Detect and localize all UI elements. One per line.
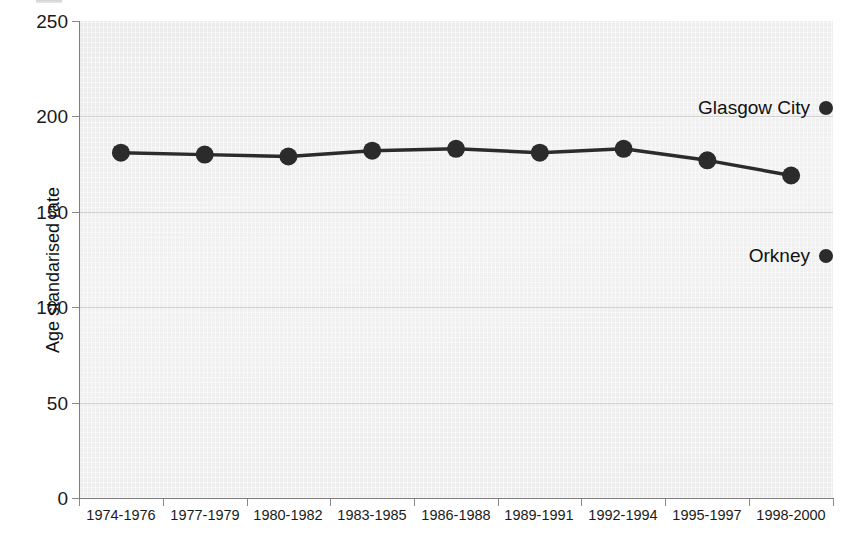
line-chart: 250 200 150 100 50 0 Age standarised rat… bbox=[0, 0, 843, 543]
x-tick-mark-4 bbox=[414, 499, 415, 506]
x-tick-mark-9 bbox=[833, 499, 834, 506]
data-point bbox=[698, 151, 716, 169]
x-tick-mark-2 bbox=[247, 499, 248, 506]
y-tick-mark-200 bbox=[72, 116, 79, 117]
y-tick-mark-150 bbox=[72, 212, 79, 213]
y-tick-label-0: 0 bbox=[0, 489, 68, 508]
x-tick-label-1983-1985: 1983-1985 bbox=[337, 508, 406, 523]
legend-label-glasgow-city: Glasgow City bbox=[698, 97, 810, 119]
x-tick-label-1989-1991: 1989-1991 bbox=[504, 508, 573, 523]
series-glasgow-city bbox=[79, 21, 833, 498]
data-point bbox=[363, 142, 381, 160]
x-tick-label-1980-1982: 1980-1982 bbox=[253, 508, 322, 523]
x-tick-mark-8 bbox=[749, 499, 750, 506]
y-tick-label-50: 50 bbox=[0, 394, 68, 413]
series-markers bbox=[112, 140, 800, 185]
filled-circle-marker-icon bbox=[819, 249, 833, 263]
legend-item-glasgow-city: Glasgow City bbox=[698, 97, 833, 119]
cropped-title-artifact bbox=[36, 0, 62, 3]
y-tick-mark-100 bbox=[72, 307, 79, 308]
y-tick-label-200: 200 bbox=[0, 107, 68, 126]
x-tick-mark-7 bbox=[665, 499, 666, 506]
y-tick-label-250: 250 bbox=[0, 12, 68, 31]
x-axis-line bbox=[79, 498, 834, 499]
data-point bbox=[196, 146, 214, 164]
y-axis-line bbox=[79, 21, 80, 499]
filled-circle-marker-icon bbox=[819, 101, 833, 115]
x-tick-label-1986-1988: 1986-1988 bbox=[421, 508, 490, 523]
x-tick-mark-5 bbox=[498, 499, 499, 506]
x-tick-mark-3 bbox=[330, 499, 331, 506]
x-tick-label-1974-1976: 1974-1976 bbox=[86, 508, 155, 523]
data-point bbox=[782, 167, 800, 185]
data-point bbox=[112, 144, 130, 162]
legend-label-orkney: Orkney bbox=[749, 245, 810, 267]
plot-area bbox=[79, 21, 833, 498]
x-tick-label-1977-1979: 1977-1979 bbox=[170, 508, 239, 523]
y-tick-mark-250 bbox=[72, 21, 79, 22]
x-tick-label-1998-2000: 1998-2000 bbox=[756, 508, 825, 523]
data-point bbox=[531, 144, 549, 162]
y-axis-title: Age standarised rate bbox=[43, 155, 64, 385]
y-tick-mark-0 bbox=[72, 498, 79, 499]
y-axis-title-holder: Age standarised rate bbox=[24, 120, 25, 420]
y-tick-mark-50 bbox=[72, 403, 79, 404]
legend-item-orkney: Orkney bbox=[749, 245, 833, 267]
x-tick-mark-6 bbox=[581, 499, 582, 506]
x-tick-mark-1 bbox=[163, 499, 164, 506]
x-tick-mark-0 bbox=[79, 499, 80, 506]
data-point bbox=[615, 140, 633, 158]
x-tick-label-1992-1994: 1992-1994 bbox=[588, 508, 657, 523]
x-tick-label-1995-1997: 1995-1997 bbox=[672, 508, 741, 523]
data-point bbox=[447, 140, 465, 158]
data-point bbox=[279, 148, 297, 166]
